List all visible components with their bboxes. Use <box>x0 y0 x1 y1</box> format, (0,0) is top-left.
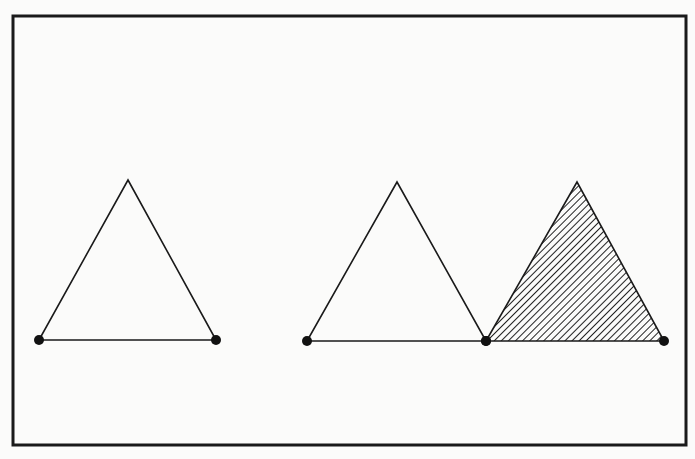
triangle-right-hatched <box>481 182 669 346</box>
vertex-dot <box>659 336 669 346</box>
vertex-dot <box>34 335 44 345</box>
triangle-middle-outline <box>307 182 486 341</box>
triangle-left <box>34 180 221 345</box>
vertex-dot <box>302 336 312 346</box>
triangle-right-hatched-outline <box>486 182 664 341</box>
triangle-middle <box>302 182 491 346</box>
diagram-canvas <box>0 0 695 459</box>
triangle-left-outline <box>39 180 216 340</box>
vertex-dot <box>481 336 491 346</box>
vertex-dot <box>211 335 221 345</box>
